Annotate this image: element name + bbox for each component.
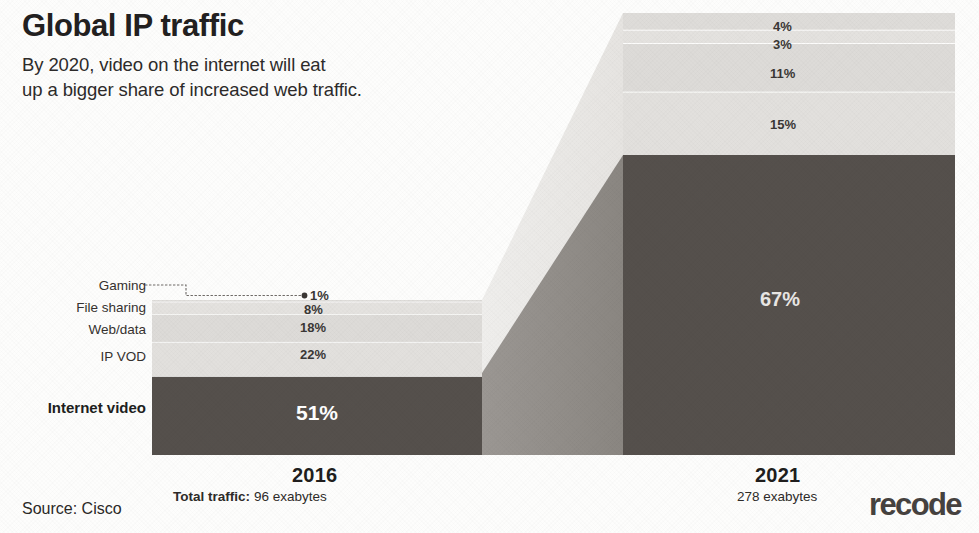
total-traffic-2016: Total traffic:96 exabytes [173,489,327,504]
value-2021-internet-video: 67% [760,289,800,309]
x-axis-label-2021: 2021 [755,464,800,487]
infographic-root: Global IP traffic By 2020, video on the … [0,0,979,533]
recode-logo: recode [869,489,961,520]
value-2016-ip-vod: 22% [300,348,326,361]
gaming-leader-dot [302,293,308,299]
total-traffic-prefix: Total traffic: [173,489,250,504]
value-2016-file-sharing: 8% [304,303,323,316]
total-traffic-2021: 278 exabytes [737,489,817,504]
category-label-file-sharing: File sharing [76,301,146,315]
value-2016-gaming: 1% [310,289,329,302]
total-traffic-2016-value: 96 exabytes [254,489,327,504]
category-label-gaming: Gaming [99,279,146,293]
value-2021-web-data: 11% [770,67,795,80]
value-2016-web-data: 18% [300,321,326,334]
category-label-column: Gaming File sharing Web/data IP VOD Inte… [0,0,146,533]
source-note: Source: Cisco [22,500,122,518]
value-2021-file-sharing: 3% [773,38,792,51]
value-2021-gaming: 4% [773,20,792,33]
ribbon-lower-dark [482,155,623,455]
value-2021-ip-vod: 15% [770,118,796,131]
value-2016-internet-video: 51% [296,402,338,423]
category-label-web-data: Web/data [88,323,146,337]
category-label-internet-video: Internet video [48,400,146,415]
x-axis-label-2016: 2016 [292,464,337,487]
gaming-leader-line [145,285,303,296]
category-label-ip-vod: IP VOD [100,350,146,364]
